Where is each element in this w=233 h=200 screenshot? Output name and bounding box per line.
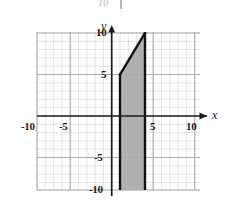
graph-canvas [0,0,233,200]
x-tick-label-5: 5 [150,120,155,132]
cropped-label-artifact: 10 [98,0,108,8]
canvas-background [0,0,233,200]
y-tick-label-5: 5 [101,68,106,80]
x-tick-label-neg5: -5 [59,120,68,132]
x-tick-label-neg10: -10 [21,120,35,132]
x-axis-title: x [212,108,217,123]
y-tick-label-neg10: -10 [89,183,103,195]
coordinate-plane-figure: 10 [0,0,233,200]
y-tick-label-neg5: -5 [94,151,103,163]
x-tick-label-10: 10 [186,120,196,132]
y-axis-title: y [101,19,106,34]
cropped-axis-artifact [120,0,122,9]
